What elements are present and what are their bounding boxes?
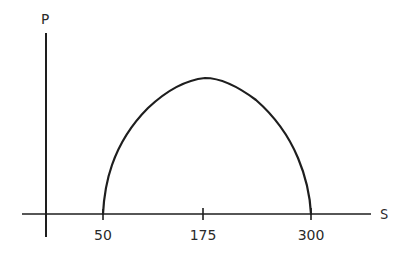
- chart-canvas: [0, 0, 408, 254]
- x-axis-label: S: [380, 207, 388, 221]
- y-axis-label: P: [41, 12, 49, 26]
- x-tick-label-300: 300: [298, 228, 325, 242]
- x-tick-label-175: 175: [190, 228, 217, 242]
- x-tick-label-50: 50: [94, 228, 112, 242]
- p-curve: [103, 78, 311, 214]
